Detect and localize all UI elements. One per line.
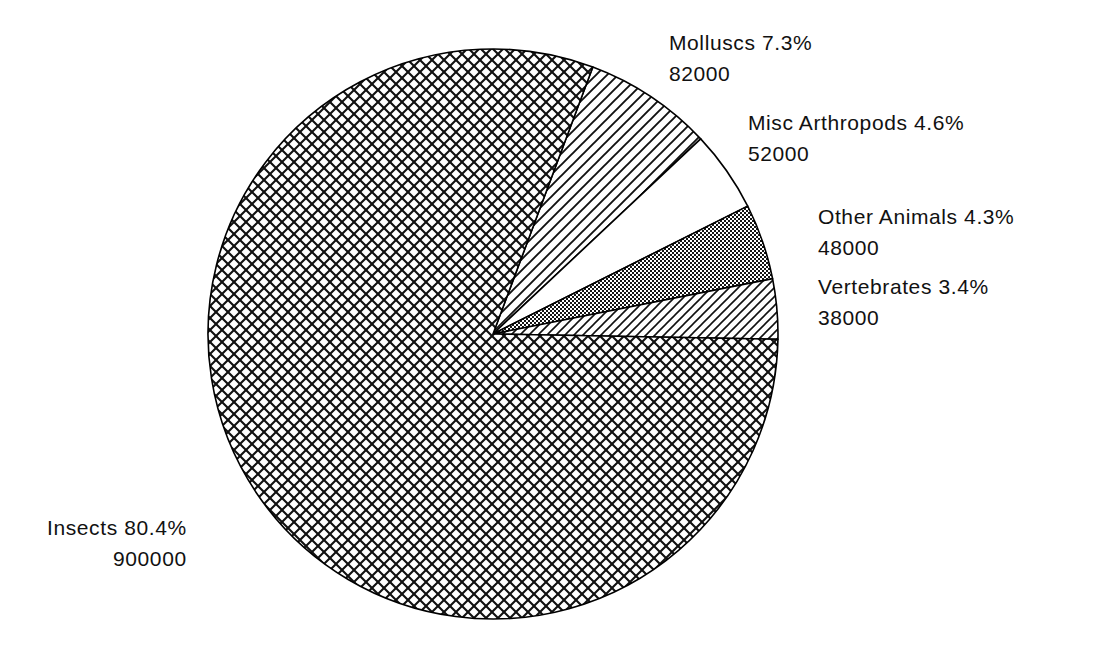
pie-label-misc-arthropods: Misc Arthropods 4.6% 52000 — [748, 107, 964, 169]
pie-label-other-animals: Other Animals 4.3% 48000 — [818, 201, 1014, 263]
pie-label-other-animals-value: 48000 — [818, 232, 1014, 263]
pie-label-misc-arthropods-name: Misc Arthropods 4.6% — [748, 107, 964, 138]
pie-label-insects: Insects 80.4% 900000 — [47, 512, 187, 574]
pie-label-misc-arthropods-value: 52000 — [748, 138, 964, 169]
pie-label-molluscs-name: Molluscs 7.3% — [669, 27, 812, 58]
pie-label-molluscs: Molluscs 7.3% 82000 — [669, 27, 812, 89]
pie-label-other-animals-name: Other Animals 4.3% — [818, 201, 1014, 232]
pie-label-vertebrates-value: 38000 — [818, 302, 989, 333]
pie-slices-group — [208, 49, 778, 619]
pie-label-molluscs-value: 82000 — [669, 58, 812, 89]
pie-label-insects-name: Insects 80.4% — [47, 512, 187, 543]
pie-label-vertebrates: Vertebrates 3.4% 38000 — [818, 271, 989, 333]
pie-label-insects-value: 900000 — [47, 543, 187, 574]
pie-chart-figure: Molluscs 7.3% 82000 Misc Arthropods 4.6%… — [0, 0, 1093, 661]
pie-label-vertebrates-name: Vertebrates 3.4% — [818, 271, 989, 302]
